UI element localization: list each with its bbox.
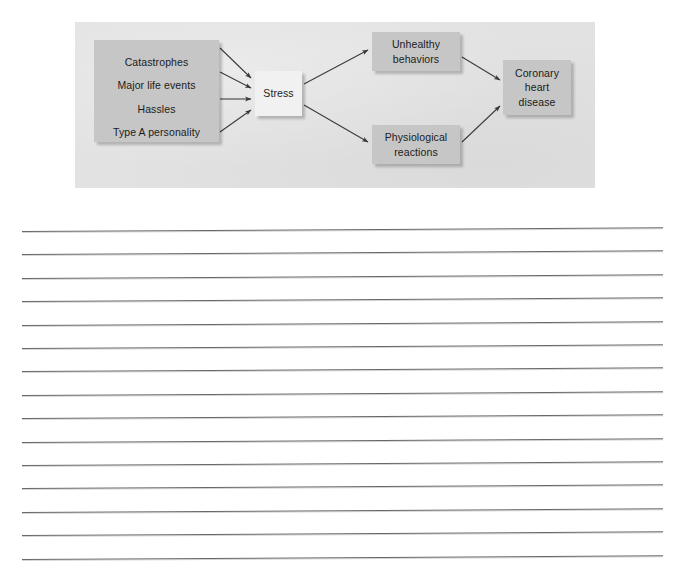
note-line <box>22 555 663 560</box>
note-line <box>22 344 663 349</box>
stressor-item-major-life-events: Major life events <box>94 74 219 98</box>
node-physiological-line-2: reactions <box>394 146 438 158</box>
figure-panel: Catastrophes Major life events Hassles T… <box>75 22 595 188</box>
node-stress-label: Stress <box>263 86 293 100</box>
arrow-physiological-to-coronary <box>462 106 500 142</box>
note-line <box>22 321 663 326</box>
node-coronary-line-2: heart <box>525 81 549 93</box>
node-coronary-line-3: disease <box>519 96 556 108</box>
note-line <box>22 531 663 536</box>
note-line <box>22 414 663 419</box>
arrow-stress-to-unhealthy <box>304 50 368 84</box>
note-line <box>22 297 663 302</box>
arrow-unhealthy-to-coronary <box>462 57 500 80</box>
note-line <box>22 461 663 466</box>
note-line <box>22 227 663 232</box>
stressor-item-catastrophes: Catastrophes <box>94 50 219 74</box>
note-line <box>22 485 663 490</box>
node-physiological-reactions-label: Physiological reactions <box>385 130 448 158</box>
node-unhealthy-behaviors: Unhealthy behaviors <box>372 32 460 71</box>
note-line <box>22 368 663 373</box>
node-physiological-reactions: Physiological reactions <box>372 125 460 164</box>
node-physiological-line-1: Physiological <box>385 131 448 143</box>
stressor-item-hassles: Hassles <box>94 97 219 121</box>
arrow-major-life-events-to-stress <box>220 72 251 88</box>
node-stressors-box: Catastrophes Major life events Hassles T… <box>94 40 219 142</box>
arrow-type-a-to-stress <box>220 110 251 132</box>
node-unhealthy-behaviors-label: Unhealthy behaviors <box>392 37 440 65</box>
note-line <box>22 508 663 513</box>
node-coronary-line-1: Coronary <box>515 67 559 79</box>
node-coronary-heart-disease-label: Coronary heart disease <box>515 66 559 109</box>
node-stress: Stress <box>255 71 302 116</box>
node-unhealthy-line-1: Unhealthy <box>392 38 440 50</box>
note-line <box>22 438 663 443</box>
note-line <box>22 251 663 256</box>
note-line <box>22 274 663 279</box>
node-coronary-heart-disease: Coronary heart disease <box>503 60 571 115</box>
node-unhealthy-line-2: behaviors <box>393 53 439 65</box>
note-lines-area <box>0 200 687 561</box>
arrow-stress-to-physiological <box>304 105 368 142</box>
arrow-catastrophes-to-stress <box>220 48 251 78</box>
stressor-item-type-a-personality: Type A personality <box>94 121 219 145</box>
note-line <box>22 391 663 396</box>
